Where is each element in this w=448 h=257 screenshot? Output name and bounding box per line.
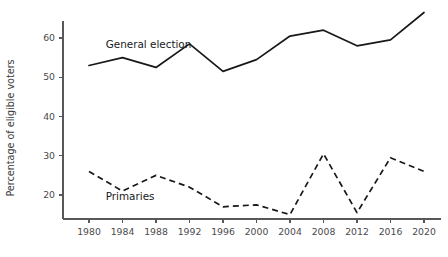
y-tick-label: 20 xyxy=(43,189,55,200)
x-tick-label: 2000 xyxy=(245,226,269,237)
x-tick-label: 1980 xyxy=(77,226,101,237)
y-axis-title: Percentage of eligible voters xyxy=(5,59,16,196)
chart-canvas: 2030405060 19801984198819921996200020042… xyxy=(0,0,448,257)
y-tick-label: 30 xyxy=(43,150,55,161)
x-tick-label: 1984 xyxy=(111,226,135,237)
voter-turnout-chart: 2030405060 19801984198819921996200020042… xyxy=(0,0,448,257)
y-tick-label: 50 xyxy=(43,71,55,82)
x-tick-label: 2004 xyxy=(278,226,302,237)
series-label-1: General election xyxy=(106,38,192,50)
series-annotations: General electionPrimaries xyxy=(106,38,192,203)
x-axis: 1980198419881992199620002004200820122016… xyxy=(63,219,441,237)
series-label-2: Primaries xyxy=(106,190,155,202)
y-axis: 2030405060 xyxy=(43,21,63,219)
x-tick-label: 2008 xyxy=(312,226,336,237)
x-tick-label: 2016 xyxy=(379,226,403,237)
series-line-2 xyxy=(89,154,424,215)
x-tick-label: 2012 xyxy=(345,226,369,237)
x-tick-label: 1988 xyxy=(144,226,168,237)
x-tick-label: 1992 xyxy=(178,226,202,237)
x-tick-label: 1996 xyxy=(211,226,235,237)
x-tick-label: 2020 xyxy=(412,226,436,237)
y-tick-label: 40 xyxy=(43,111,55,122)
y-tick-label: 60 xyxy=(43,32,55,43)
